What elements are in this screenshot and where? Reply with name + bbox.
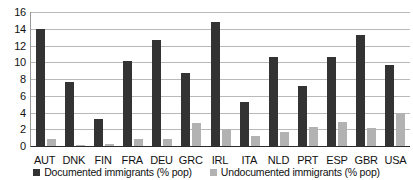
y-axis-tick-label: 2: [20, 124, 26, 135]
bar-documented: [298, 86, 307, 146]
bar-undocumented: [396, 113, 405, 147]
bar-group: [177, 12, 206, 146]
legend-entry: Undocumented immigrants (% pop): [210, 167, 380, 178]
bar-documented: [240, 102, 249, 146]
bar-undocumented: [222, 129, 231, 146]
bar-documented: [356, 35, 365, 146]
bar-documented: [385, 65, 394, 146]
bar-undocumented: [251, 136, 260, 146]
bar-chart-figure: 0246810121416 AUTDNKFINFRADEUGRCIRLITANL…: [0, 0, 413, 180]
bar-undocumented: [76, 145, 85, 146]
bar-undocumented: [105, 144, 114, 146]
bar-documented: [211, 22, 220, 146]
chart-legend: Documented immigrants (% pop)Undocumente…: [0, 165, 413, 179]
plot-area: [30, 12, 410, 147]
bar-undocumented: [163, 139, 172, 146]
bar-group: [352, 12, 381, 146]
bar-group: [235, 12, 264, 146]
y-axis-tick-label: 16: [14, 7, 26, 18]
y-axis: 0246810121416: [0, 4, 30, 150]
y-axis-tick-label: 14: [14, 23, 26, 34]
bar-group: [293, 12, 322, 146]
bar-documented: [36, 29, 45, 146]
bar-group: [381, 12, 410, 146]
y-axis-tick-label: 10: [14, 57, 26, 68]
bar-undocumented: [309, 127, 318, 146]
bar-group: [118, 12, 147, 146]
legend-entry: Documented immigrants (% pop): [33, 167, 192, 178]
square-swatch-dark: [33, 169, 40, 176]
bar-documented: [94, 119, 103, 146]
bar-documented: [65, 82, 74, 146]
y-axis-tick-label: 12: [14, 40, 26, 51]
bar-undocumented: [192, 123, 201, 146]
bar-group: [323, 12, 352, 146]
bar-documented: [181, 73, 190, 146]
y-axis-tick-label: 0: [20, 141, 26, 152]
legend-label: Documented immigrants (% pop): [44, 167, 192, 178]
bar-undocumented: [367, 128, 376, 146]
bar-documented: [327, 57, 336, 146]
plot-region: 0246810121416 AUTDNKFINFRADEUGRCIRLITANL…: [0, 4, 413, 150]
bar-undocumented: [47, 139, 56, 146]
bar-group: [60, 12, 89, 146]
bar-documented: [123, 61, 132, 146]
y-axis-tick-label: 4: [20, 107, 26, 118]
bar-group: [264, 12, 293, 146]
y-axis-tick-label: 8: [20, 74, 26, 85]
y-axis-tick-label: 6: [20, 90, 26, 101]
legend-label: Undocumented immigrants (% pop): [221, 167, 380, 178]
bar-group: [89, 12, 118, 146]
bar-group: [31, 12, 60, 146]
bar-undocumented: [338, 122, 347, 146]
bar-documented: [269, 57, 278, 146]
square-swatch-light: [210, 169, 217, 176]
bar-group: [206, 12, 235, 146]
bar-group: [148, 12, 177, 146]
bar-undocumented: [134, 139, 143, 146]
bar-documented: [152, 40, 161, 146]
bar-undocumented: [280, 132, 289, 146]
bars-layer: [31, 12, 410, 146]
